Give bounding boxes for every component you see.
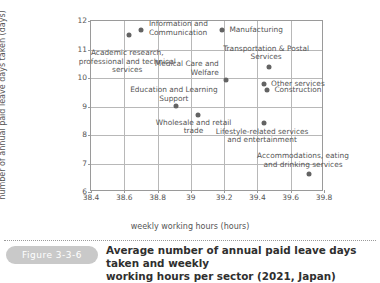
gridline-vertical — [158, 21, 159, 190]
x-tick-label: 39.6 — [282, 194, 299, 202]
data-point[interactable] — [307, 172, 312, 177]
y-tick-mark — [88, 78, 91, 79]
data-point[interactable] — [195, 112, 200, 117]
y-axis-title: number of annual paid leave days taken (… — [0, 10, 7, 199]
data-point-label-line: Services — [223, 53, 309, 62]
figure-number-badge: Figure 3-3-6 — [6, 246, 98, 264]
figure-caption-band: Figure 3-3-6 Average number of annual pa… — [0, 240, 380, 266]
data-point-label-line: and entertainment — [216, 136, 309, 145]
data-point[interactable] — [138, 28, 143, 33]
x-tick-label: 39 — [186, 194, 196, 202]
y-axis-title-text: number of annual paid leave days taken (… — [0, 10, 7, 199]
x-axis-title: weekly working hours (hours) — [0, 222, 380, 231]
data-point-label-line: Manufacturing — [229, 26, 283, 35]
data-point-label: Information andCommunication — [149, 20, 208, 37]
y-tick-label: 8 — [59, 131, 87, 139]
x-tick-label: 38.6 — [116, 194, 133, 202]
data-point-label: Education and LearningSupport — [130, 86, 217, 103]
data-point-label: Medical Care andWelfare — [155, 60, 219, 77]
gridline-vertical — [191, 21, 192, 190]
data-point-label-line: Construction — [274, 86, 321, 95]
x-tick-label: 38.8 — [149, 194, 166, 202]
x-tick-label: 39.4 — [249, 194, 266, 202]
scatter-chart-figure: number of annual paid leave days taken (… — [0, 0, 380, 240]
data-point-label: Lifestyle-related servicesand entertainm… — [216, 128, 309, 145]
y-tick-mark — [88, 135, 91, 136]
y-tick-label: 9 — [59, 103, 87, 111]
figure-caption-line-2: working hours per sector (2021, Japan) — [106, 270, 378, 283]
y-tick-label: 12 — [59, 17, 87, 25]
y-tick-label: 7 — [59, 160, 87, 168]
gridline-vertical — [124, 21, 125, 190]
data-point[interactable] — [220, 28, 225, 33]
data-point-label: Construction — [274, 86, 321, 95]
data-point-label: Manufacturing — [229, 26, 283, 35]
plot-area: 678910111238.438.638.83939.239.439.639.8… — [90, 20, 323, 191]
data-point[interactable] — [262, 120, 267, 125]
gridline-horizontal — [91, 107, 322, 108]
y-tick-mark — [88, 107, 91, 108]
data-point[interactable] — [127, 32, 132, 37]
data-point-label-line: and drinking services — [257, 161, 349, 170]
y-tick-label: 10 — [59, 74, 87, 82]
data-point[interactable] — [262, 81, 267, 86]
x-tick-label: 38.4 — [83, 194, 100, 202]
data-point-label-line: Communication — [149, 29, 208, 38]
data-point-label: Accommodations, eatingand drinking servi… — [257, 152, 349, 169]
x-axis-title-text: weekly working hours (hours) — [131, 222, 250, 231]
data-point-label-line: Support — [130, 95, 217, 104]
x-tick-label: 39.8 — [316, 194, 333, 202]
data-point-label: Transportation & PostalServices — [223, 45, 309, 62]
x-tick-label: 39.2 — [216, 194, 233, 202]
data-point-label-line: Welfare — [155, 69, 219, 78]
caption-divider — [4, 240, 376, 241]
data-point[interactable] — [223, 78, 228, 83]
data-point[interactable] — [265, 87, 270, 92]
y-tick-mark — [88, 21, 91, 22]
data-point[interactable] — [267, 64, 272, 69]
figure-caption: Average number of annual paid leave days… — [106, 244, 378, 283]
figure-caption-line-1: Average number of annual paid leave days… — [106, 244, 356, 269]
data-point[interactable] — [173, 104, 178, 109]
y-tick-mark — [88, 164, 91, 165]
